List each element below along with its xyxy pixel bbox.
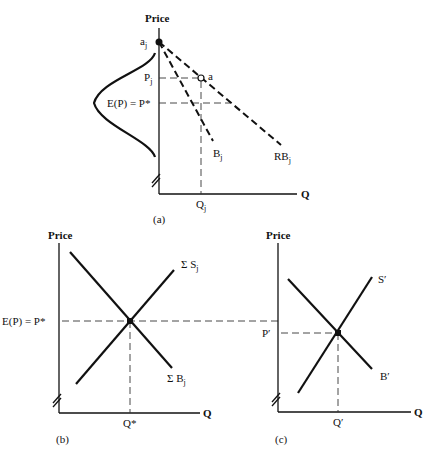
label-bj: Bj — [213, 147, 223, 162]
panel-a-y-label: Price — [145, 12, 170, 24]
panel-c-y-label: Price — [266, 229, 291, 241]
equilibrium-point-b — [127, 318, 133, 324]
rbj-line — [159, 42, 281, 145]
demand-b-prime-line — [288, 279, 372, 369]
panel-c-x-label: Q — [414, 406, 423, 418]
panel-a-x-label: Q — [301, 188, 310, 200]
label-pj: Pj — [144, 71, 152, 86]
panel-b-y-label: Price — [48, 229, 73, 241]
panel-b-caption: (b) — [56, 433, 69, 446]
panel-b: Price Q E(P) = P* Σ Sj Σ Bj Q* (b) — [2, 229, 278, 446]
panel-a: Price Q aj a Pj E(P) = P* Qj Bj RBj (a) — [94, 12, 310, 226]
label-b-prime: B′ — [380, 370, 390, 382]
label-rbj: RBj — [274, 150, 291, 165]
label-sum-bj: Σ Bj — [167, 372, 186, 387]
label-ep-b: E(P) = P* — [2, 315, 45, 328]
aggregate-supply-line — [76, 270, 174, 384]
equilibrium-point-c — [335, 330, 341, 336]
label-pprime: P′ — [262, 327, 271, 339]
label-ep-a: E(P) = P* — [107, 97, 150, 110]
point-a — [198, 75, 204, 81]
label-s-prime: S′ — [378, 273, 387, 285]
panel-b-x-label: Q — [203, 407, 212, 419]
panel-c: Price Q P′ S′ B′ Q′ (c) — [262, 229, 423, 446]
point-aj — [156, 39, 163, 46]
panel-a-caption: (a) — [153, 213, 166, 226]
label-aj: aj — [140, 35, 147, 50]
label-sum-sj: Σ Sj — [181, 258, 199, 273]
label-qstar: Q* — [123, 417, 136, 429]
economics-diagram: Price Q aj a Pj E(P) = P* Qj Bj RBj (a) … — [0, 0, 438, 460]
aggregate-demand-line — [70, 252, 172, 368]
label-qprime: Q′ — [333, 416, 343, 428]
panel-c-caption: (c) — [275, 433, 288, 446]
label-qj: Qj — [196, 198, 206, 213]
label-a: a — [208, 70, 213, 82]
bj-line — [159, 42, 213, 141]
